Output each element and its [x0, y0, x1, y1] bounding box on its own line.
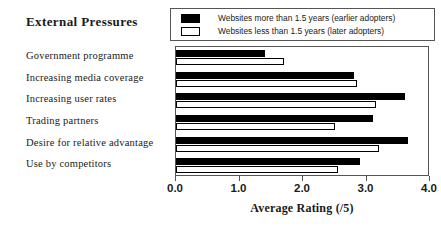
legend-item: Websites more than 1.5 years (earlier ad…: [181, 12, 434, 25]
bar-earlier-adopters: [176, 137, 408, 144]
x-axis-tick-label: 0.0: [167, 182, 183, 194]
bar-group: [176, 69, 428, 91]
x-axis-title: Average Rating (/5): [175, 201, 429, 216]
bar-later-adopters: [176, 58, 284, 65]
legend-swatch-filled-icon: [181, 14, 200, 23]
x-axis-tick: [175, 176, 176, 181]
page-title: External Pressures: [26, 14, 138, 30]
x-axis-tick-label: 4.0: [421, 182, 437, 194]
category-axis-labels: Government programmeIncreasing media cov…: [0, 46, 173, 176]
bar-earlier-adopters: [176, 115, 373, 122]
bar-group: [176, 134, 428, 156]
bar-group: [176, 90, 428, 112]
x-axis-tick-label: 3.0: [358, 182, 374, 194]
category-label: Increasing media coverage: [26, 72, 169, 83]
legend-item-label: Websites less than 1.5 years (later adop…: [218, 26, 384, 37]
bars-container: [176, 47, 428, 175]
bar-later-adopters: [176, 80, 357, 87]
category-label: Government programme: [26, 50, 169, 61]
category-label: Desire for relative advantage: [26, 137, 169, 148]
legend-item-label: Websites more than 1.5 years (earlier ad…: [218, 13, 395, 24]
bar-later-adopters: [176, 101, 376, 108]
x-axis-tick: [239, 176, 240, 181]
bar-earlier-adopters: [176, 93, 405, 100]
bar-later-adopters: [176, 145, 379, 152]
legend-swatch-hollow-icon: [181, 27, 200, 36]
x-axis-tick-label: 1.0: [231, 182, 247, 194]
bar-group: [176, 112, 428, 134]
bar-group: [176, 155, 428, 177]
category-label: Trading partners: [26, 115, 169, 126]
x-axis-tick-label: 2.0: [294, 182, 310, 194]
bar-group: [176, 47, 428, 69]
x-axis-tick: [429, 176, 430, 181]
legend-item: Websites less than 1.5 years (later adop…: [181, 25, 434, 38]
plot-area: [175, 46, 429, 176]
bar-earlier-adopters: [176, 72, 354, 79]
bar-later-adopters: [176, 166, 338, 173]
x-axis-tick: [302, 176, 303, 181]
chart-legend: Websites more than 1.5 years (earlier ad…: [170, 8, 435, 41]
category-label: Use by competitors: [26, 158, 169, 169]
category-label: Increasing user rates: [26, 93, 169, 104]
bar-later-adopters: [176, 123, 335, 130]
bar-earlier-adopters: [176, 158, 360, 165]
bar-earlier-adopters: [176, 50, 265, 57]
x-axis-tick: [366, 176, 367, 181]
